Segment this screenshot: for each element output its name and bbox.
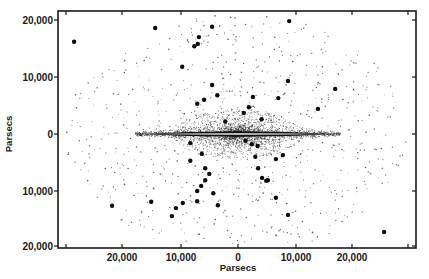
- halo-star: [336, 193, 337, 194]
- bulge-star: [288, 128, 289, 129]
- halo-star: [353, 62, 354, 63]
- disk-star: [249, 138, 250, 139]
- disk-star: [236, 128, 237, 129]
- halo-star: [111, 167, 112, 168]
- halo-star: [234, 94, 235, 95]
- halo-star: [272, 199, 273, 200]
- halo-star: [279, 47, 281, 49]
- bulge-star: [213, 121, 214, 122]
- disk-star: [219, 128, 220, 129]
- disk-star: [246, 130, 247, 131]
- halo-star: [115, 152, 116, 153]
- bulge-star: [238, 142, 239, 143]
- disk-star: [290, 131, 291, 132]
- halo-star: [124, 154, 125, 155]
- bulge-star: [194, 127, 195, 128]
- disk-star: [147, 132, 148, 133]
- disk-star: [312, 138, 313, 139]
- disk-star: [314, 132, 315, 133]
- halo-star: [89, 157, 90, 158]
- disk-star: [267, 139, 268, 140]
- disk-star: [180, 137, 181, 138]
- bulge-star: [260, 115, 261, 116]
- halo-star: [157, 104, 158, 105]
- halo-star: [264, 166, 266, 168]
- bulge-star: [223, 138, 224, 139]
- halo-star: [89, 184, 90, 185]
- halo-star: [239, 79, 240, 80]
- bulge-star: [262, 116, 263, 117]
- bulge-star: [216, 122, 217, 123]
- halo-star: [124, 117, 125, 118]
- disk-star: [135, 133, 136, 134]
- disk-star: [264, 138, 265, 139]
- disk-star: [276, 130, 277, 131]
- disk-star: [187, 131, 188, 132]
- halo-star: [203, 155, 204, 156]
- bulge-star: [257, 113, 258, 114]
- halo-star: [255, 180, 256, 181]
- bulge-star: [236, 121, 237, 122]
- halo-star: [161, 230, 162, 231]
- bulge-star: [251, 114, 252, 115]
- halo-star: [87, 82, 89, 84]
- bulge-star: [256, 151, 257, 152]
- disk-star: [259, 127, 260, 128]
- halo-star: [287, 189, 288, 190]
- globular-cluster-point: [259, 117, 263, 121]
- bulge-star: [264, 146, 265, 147]
- disk-star: [257, 138, 258, 139]
- bulge-star: [209, 127, 210, 128]
- halo-star: [314, 169, 315, 170]
- bulge-star: [207, 120, 208, 121]
- bulge-star: [274, 115, 275, 116]
- disk-star: [191, 138, 192, 139]
- halo-star: [205, 36, 206, 37]
- bulge-star: [196, 126, 197, 127]
- disk-star: [309, 132, 310, 133]
- halo-star: [282, 176, 283, 177]
- disk-star: [328, 136, 329, 137]
- disk-star: [240, 137, 241, 138]
- bulge-star: [196, 116, 197, 117]
- bulge-star: [232, 125, 233, 126]
- bulge-star: [273, 118, 274, 119]
- bulge-star: [229, 118, 230, 119]
- halo-star: [356, 148, 357, 149]
- halo-star: [337, 179, 338, 180]
- disk-star: [160, 131, 161, 132]
- halo-star: [247, 92, 248, 93]
- disk-star: [251, 139, 252, 140]
- bulge-star: [279, 141, 280, 142]
- halo-star: [368, 114, 370, 116]
- bulge-star: [189, 121, 190, 122]
- bulge-star: [260, 146, 261, 147]
- bulge-star: [222, 146, 223, 147]
- halo-star: [199, 233, 201, 235]
- bulge-star: [217, 141, 218, 142]
- halo-star: [399, 155, 401, 157]
- halo-star: [113, 93, 115, 95]
- bulge-star: [244, 147, 245, 148]
- disk-star: [211, 138, 212, 139]
- bulge-star: [296, 126, 297, 127]
- bulge-star: [261, 149, 262, 150]
- bulge-star: [279, 149, 280, 150]
- halo-star: [382, 183, 383, 184]
- bulge-star: [261, 115, 262, 116]
- bulge-star: [255, 149, 256, 150]
- bulge-star: [260, 144, 261, 145]
- disk-star: [194, 139, 195, 140]
- disk-star: [184, 129, 185, 130]
- bulge-star: [248, 149, 249, 150]
- bulge-star: [197, 128, 198, 129]
- halo-star: [324, 32, 325, 33]
- globular-cluster-point: [195, 102, 199, 106]
- halo-star: [176, 160, 178, 162]
- bulge-star: [261, 123, 262, 124]
- disk-star: [244, 123, 245, 124]
- bulge-star: [181, 140, 182, 141]
- bulge-star: [217, 153, 218, 154]
- halo-star: [230, 17, 231, 18]
- disk-star: [247, 138, 248, 139]
